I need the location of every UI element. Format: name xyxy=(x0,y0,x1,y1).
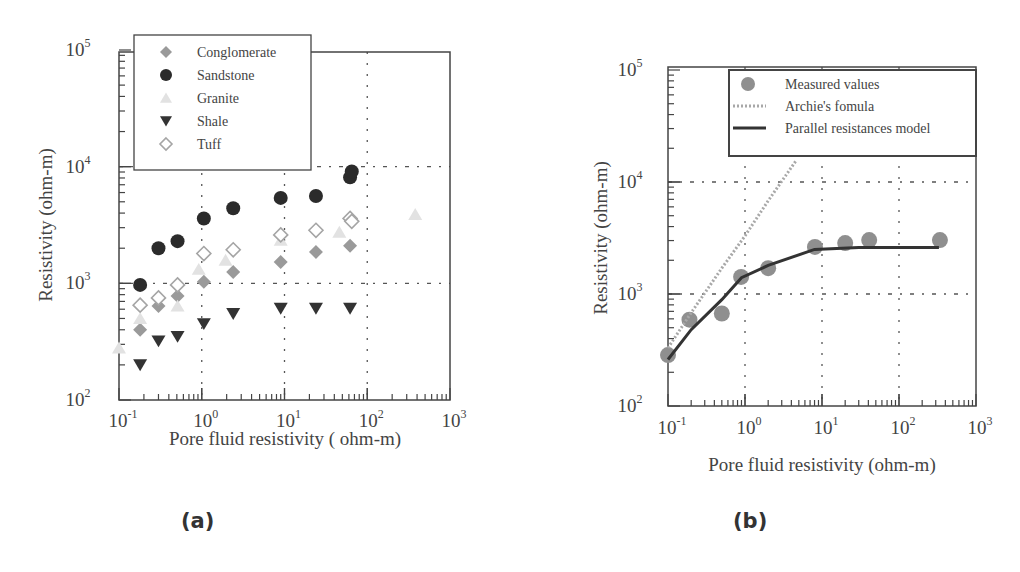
legend-label: Measured values xyxy=(785,77,879,92)
y-axis-label: Resistivity (ohm-m) xyxy=(590,161,612,315)
legend-marker-icon xyxy=(741,77,755,91)
x-axis-label: Pore fluid resistivity (ohm-m) xyxy=(708,454,935,476)
legend-label: Archie's fomula xyxy=(785,99,875,114)
series-parallel-resistances-model xyxy=(668,248,939,360)
data-point xyxy=(861,232,877,248)
y-tick-label: 103 xyxy=(618,280,643,304)
legend-label: Parallel resistances model xyxy=(785,121,931,136)
x-tick-label: 101 xyxy=(814,414,839,438)
panel-a-label: (a) xyxy=(181,509,214,533)
x-tick-label: 102 xyxy=(891,414,916,438)
x-tick-label: 100 xyxy=(737,414,762,438)
y-tick-label: 104 xyxy=(618,168,643,192)
x-tick-label: 10-1 xyxy=(658,414,687,438)
x-tick-label: 103 xyxy=(968,414,993,438)
data-point xyxy=(932,232,948,248)
data-point xyxy=(660,347,676,363)
y-tick-label: 102 xyxy=(618,392,643,416)
panel-b-label: (b) xyxy=(733,509,767,533)
series-line xyxy=(668,248,939,360)
data-point xyxy=(714,305,730,321)
legend: Measured valuesArchie's fomulaParallel r… xyxy=(729,70,976,156)
y-tick-label: 105 xyxy=(618,56,643,80)
chart-b: 10-1100101102103102103104105Pore fluid r… xyxy=(0,0,1020,572)
